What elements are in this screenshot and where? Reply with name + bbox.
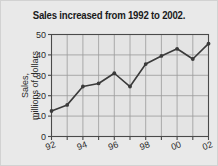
x-axis-tick-label: 02 <box>201 139 214 152</box>
x-axis-tick-label: 98 <box>138 139 151 152</box>
y-axis-tick-label: 0 <box>41 132 46 142</box>
y-axis-tick-label: 50 <box>36 30 46 40</box>
x-axis-tick-label: 92 <box>44 139 57 152</box>
data-point-marker <box>97 82 101 86</box>
data-point-marker <box>191 57 195 61</box>
x-axis-tick-label: 96 <box>107 139 120 152</box>
chart-figure: Sales increased from 1992 to 2002. 01020… <box>0 0 218 166</box>
data-point-marker <box>175 47 179 51</box>
data-point-marker <box>160 54 164 58</box>
data-point-marker <box>144 62 148 66</box>
y-axis-label-line1: Sales, <box>20 73 30 98</box>
data-point-marker <box>207 42 211 46</box>
chart-plot: 01020304050929496980002Sales,millions of… <box>1 1 218 166</box>
data-point-marker <box>65 103 69 107</box>
data-point-marker <box>128 85 132 89</box>
y-axis-label-line2: millions of dollars <box>30 50 40 120</box>
data-point-marker <box>50 109 54 113</box>
x-axis-tick-label: 94 <box>75 139 88 152</box>
data-point-marker <box>81 85 85 89</box>
x-axis-tick-label: 00 <box>170 139 183 152</box>
data-point-marker <box>112 71 116 75</box>
